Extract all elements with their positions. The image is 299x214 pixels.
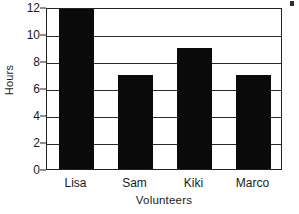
y-axis-tick-label: 2 — [33, 137, 40, 149]
x-axis-tick-label: Sam — [122, 176, 147, 190]
bar-chart: Hours 024681012 LisaSamKikiMarco Volunte… — [0, 0, 299, 214]
bar — [177, 48, 211, 170]
scan-artifact-speck — [290, 1, 294, 6]
y-axis-tick-label: 6 — [33, 83, 40, 95]
y-axis-tick-labels: 024681012 — [18, 8, 40, 170]
y-axis-tick-label: 10 — [27, 29, 40, 41]
x-axis-title: Volunteers — [46, 194, 282, 206]
y-axis-tick-label: 0 — [33, 164, 40, 176]
bars-group — [47, 9, 281, 169]
bar — [59, 8, 93, 169]
bar — [236, 75, 270, 170]
y-axis-tick-label: 4 — [33, 110, 40, 122]
x-axis-tick-labels: LisaSamKikiMarco — [46, 176, 282, 192]
x-axis-tick-label: Lisa — [64, 176, 86, 190]
y-axis-tick-label: 12 — [27, 2, 40, 14]
y-axis-tick-label: 8 — [33, 56, 40, 68]
x-axis-tick-label: Marco — [236, 176, 269, 190]
x-axis-tick-label: Kiki — [184, 176, 203, 190]
plot-area — [46, 8, 282, 170]
bar — [118, 75, 152, 170]
y-axis-title: Hours — [3, 50, 15, 110]
